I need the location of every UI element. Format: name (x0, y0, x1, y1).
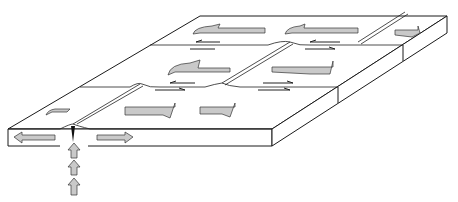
upwelling-arrows (68, 143, 80, 195)
transform-fault-diagram (0, 0, 458, 202)
